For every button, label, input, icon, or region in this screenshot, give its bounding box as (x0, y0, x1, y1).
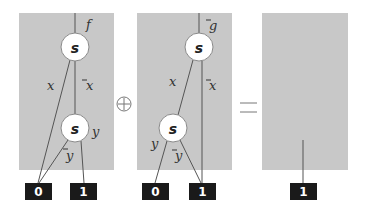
edge-label-y: y (150, 136, 159, 151)
edge-label-x: x (169, 74, 177, 89)
node-label: s (195, 40, 203, 56)
edge-label-y-bar: y (65, 148, 74, 163)
root-label-g: g (209, 18, 217, 33)
node-label: s (71, 121, 79, 137)
bdd-xor-diagram: s s f x x y y 0 1 s s g x (0, 0, 366, 212)
terminal-label: 1 (79, 185, 87, 199)
edge-label-y: y (91, 124, 100, 139)
terminal-label: 0 (151, 185, 159, 199)
terminal-label: 1 (198, 185, 206, 199)
node-label: s (71, 40, 79, 56)
edge-label-x: x (47, 78, 55, 93)
panel-right (262, 13, 348, 170)
node-label: s (169, 121, 177, 137)
xor-operator (117, 97, 131, 111)
edge-label-x-bar: x (209, 78, 217, 93)
edge-label-y-bar: y (174, 148, 183, 163)
edge-label-x-bar: x (86, 78, 94, 93)
equals-operator (240, 103, 257, 112)
terminal-label: 1 (299, 185, 307, 199)
terminal-label: 0 (34, 185, 42, 199)
